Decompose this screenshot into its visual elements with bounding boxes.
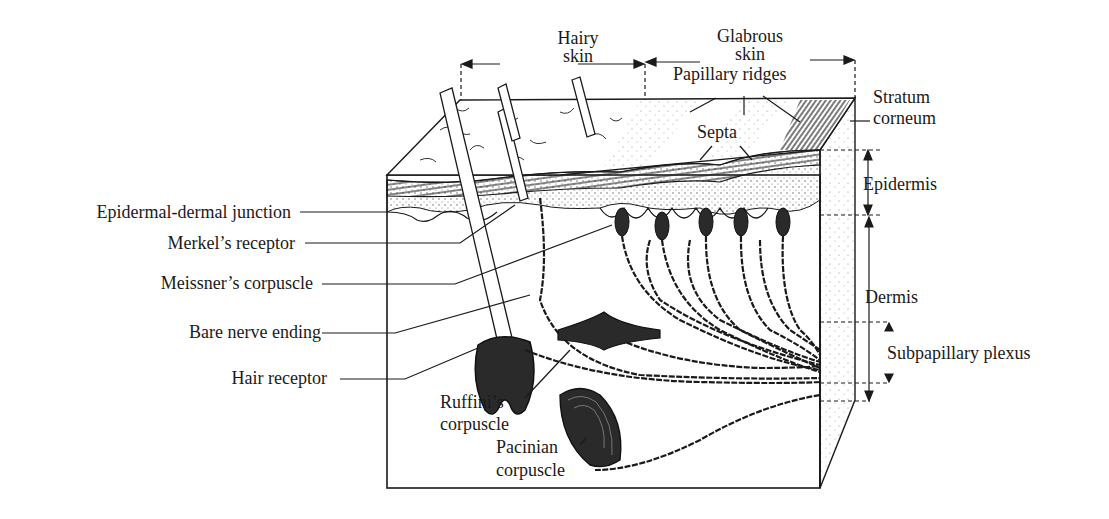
hairy-skin-label-line1: Hairy	[548, 28, 608, 48]
ruffinis-corpuscle-label-line2: corpuscle	[440, 414, 509, 434]
ruffinis-corpuscle-label-line1: Ruffini’s	[440, 392, 504, 412]
epidermal-dermal-junction-label: Epidermal-dermal junction	[0, 202, 291, 222]
merkels-receptor-label: Merkel’s receptor	[0, 233, 295, 253]
pacinian-corpuscle-label-line2: corpuscle	[496, 460, 565, 480]
glabrous-skin-label-line2: skin	[700, 44, 800, 64]
pacinian-corpuscle-label-line1: Pacinian	[496, 437, 558, 457]
dermis-label: Dermis	[865, 287, 918, 307]
glabrous-skin-label-line1: Glabrous	[700, 26, 800, 46]
stratum-corneum-label-line2: corneum	[873, 108, 936, 128]
hair-receptor-label: Hair receptor	[0, 368, 327, 388]
meissners-corpuscle-label: Meissner’s corpuscle	[0, 273, 313, 293]
septa-label: Septa	[697, 122, 737, 142]
papillary-ridges-label: Papillary ridges	[673, 64, 786, 84]
bare-nerve-ending-label: Bare nerve ending	[0, 322, 321, 342]
subpapillary-plexus-label: Subpapillary plexus	[887, 343, 1030, 363]
epidermis-label: Epidermis	[863, 174, 937, 194]
hairy-skin-label-line2: skin	[548, 46, 608, 66]
stratum-corneum-label-line1: Stratum	[873, 87, 930, 107]
